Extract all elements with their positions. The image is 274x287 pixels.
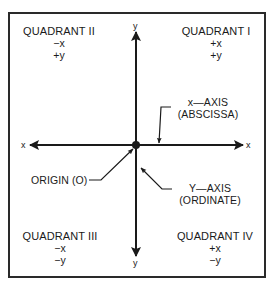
y-axis-leader-arrow	[141, 168, 172, 189]
quadrant-ii-y-sign: +y	[20, 49, 98, 61]
x-axis-right-label: x	[246, 139, 251, 151]
quadrant-i: QUADRANT I +x +y	[180, 25, 252, 61]
y-axis-bottom-label: y	[133, 257, 138, 269]
y-axis-callout-line2: (ORDINATE)	[172, 194, 248, 206]
quadrant-ii: QUADRANT II −x +y	[20, 25, 98, 61]
origin-point	[132, 141, 140, 149]
quadrant-iii-y-sign: −y	[20, 254, 100, 266]
quadrant-i-x-sign: +x	[180, 37, 252, 49]
x-axis-callout-line1: x—AXIS	[172, 96, 244, 108]
quadrant-iv-title: QUADRANT IV	[175, 230, 255, 242]
quadrant-iii-x-sign: −x	[20, 242, 100, 254]
quadrant-iv-y-sign: −y	[175, 254, 255, 266]
y-axis-top-label: y	[133, 20, 138, 32]
quadrant-ii-x-sign: −x	[20, 37, 98, 49]
quadrant-ii-title: QUADRANT II	[20, 25, 98, 37]
x-axis-leader-arrow	[159, 107, 171, 143]
quadrant-i-y-sign: +y	[180, 49, 252, 61]
origin-callout: ORIGIN (O)	[31, 174, 87, 186]
quadrant-iii-title: QUADRANT III	[20, 230, 100, 242]
x-axis-callout-line2: (ABSCISSA)	[172, 108, 244, 120]
y-axis-callout: Y—AXIS (ORDINATE)	[172, 182, 248, 206]
quadrant-i-title: QUADRANT I	[180, 25, 252, 37]
x-axis-left-label: x	[21, 139, 26, 151]
quadrant-iv: QUADRANT IV +x −y	[175, 230, 255, 266]
x-axis-callout: x—AXIS (ABSCISSA)	[172, 96, 244, 120]
origin-leader-arrow	[89, 149, 133, 180]
quadrant-iii: QUADRANT III −x −y	[20, 230, 100, 266]
quadrant-iv-x-sign: +x	[175, 242, 255, 254]
y-axis-callout-line1: Y—AXIS	[172, 182, 248, 194]
